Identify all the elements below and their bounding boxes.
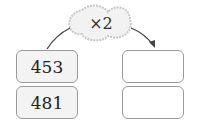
- operation-label: ×2: [70, 8, 132, 38]
- output-box-2[interactable]: [122, 86, 184, 119]
- output-box-1[interactable]: [122, 50, 184, 83]
- input-box-1: 453: [16, 50, 78, 83]
- input-arrow-line: [47, 28, 70, 49]
- input-box-2: 481: [16, 86, 78, 119]
